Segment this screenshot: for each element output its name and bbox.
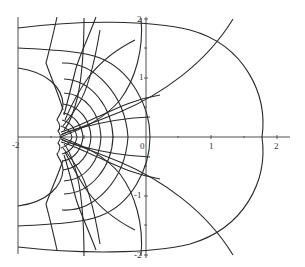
x-label-neg2: -2	[12, 141, 20, 150]
conformal-map-plot	[0, 0, 305, 267]
x-label-0: 0	[140, 142, 145, 151]
y-label-2: 2	[137, 15, 142, 24]
x-label-1: 1	[209, 142, 214, 151]
y-label-neg2: -2	[134, 251, 142, 260]
y-label-1: 1	[139, 73, 144, 82]
curve-family-radial	[46, 17, 233, 256]
x-label-2: 2	[274, 142, 279, 151]
y-label-neg1: -1	[134, 191, 142, 200]
axes	[18, 17, 290, 258]
